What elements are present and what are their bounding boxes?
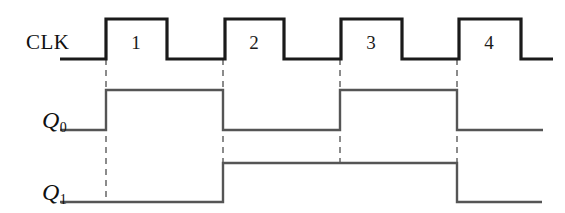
cycle-number-3: 3 — [356, 33, 386, 52]
signal-label-q1-subscript: 1 — [60, 192, 67, 207]
signal-label-q0-subscript: 0 — [60, 120, 67, 135]
cycle-number-4: 4 — [474, 33, 504, 52]
waveform-canvas — [0, 0, 565, 213]
signal-label-q1-base: Q — [42, 179, 59, 205]
timing-diagram-figure: CLK Q0 Q1 1 2 3 4 — [0, 0, 565, 213]
q1-waveform — [60, 163, 542, 202]
cycle-number-1: 1 — [121, 33, 151, 52]
cycle-number-2: 2 — [239, 33, 269, 52]
signal-label-q1: Q1 — [42, 180, 66, 204]
signal-label-clk: CLK — [26, 32, 70, 53]
signal-label-q0-base: Q — [42, 107, 59, 133]
q0-waveform — [60, 90, 543, 130]
signal-label-q0: Q0 — [42, 108, 66, 132]
